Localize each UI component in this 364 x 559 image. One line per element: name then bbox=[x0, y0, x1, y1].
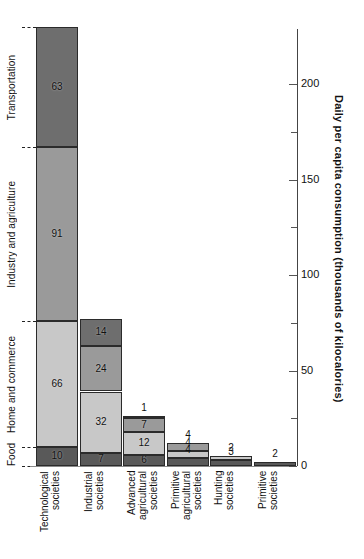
bar-5 bbox=[210, 0, 252, 466]
segment-value-label: 14 bbox=[95, 327, 106, 337]
segment-value-label: 12 bbox=[138, 438, 149, 448]
x-category-label-4: Primitive agricultural societies bbox=[170, 471, 206, 559]
bar-2: 7322414 bbox=[80, 0, 122, 466]
bar-4 bbox=[167, 0, 209, 466]
bar-segment-home-and-commerce: 32 bbox=[80, 392, 122, 453]
y-tick-label-100: 100 bbox=[301, 269, 319, 280]
y-tick-150 bbox=[289, 180, 297, 181]
y-tick-175 bbox=[291, 132, 297, 133]
segment-value-label: 91 bbox=[51, 229, 62, 239]
bar-segment-industry-and-agriculture: 91 bbox=[36, 147, 78, 321]
segment-value-label-outside: 2 bbox=[210, 443, 252, 453]
bar-segment-transportation bbox=[123, 416, 165, 418]
bar-segment-home-and-commerce: 12 bbox=[123, 432, 165, 455]
segment-value-label: 66 bbox=[51, 379, 62, 389]
bar-segment-food: 10 bbox=[36, 447, 78, 466]
y-tick-100 bbox=[289, 275, 297, 276]
segment-value-label: 24 bbox=[95, 364, 106, 374]
segment-value-label: 63 bbox=[51, 82, 62, 92]
bar-segment-home-and-commerce: 66 bbox=[36, 321, 78, 447]
y-tick-125 bbox=[291, 227, 297, 228]
bar-segment-food: 6 bbox=[123, 455, 165, 466]
y-tick-75 bbox=[291, 323, 297, 324]
bar-segment-food: 7 bbox=[80, 453, 122, 466]
bar-segment-transportation: 14 bbox=[80, 319, 122, 346]
y-axis-line bbox=[297, 29, 298, 466]
bar-segment-food bbox=[167, 458, 209, 466]
y-tick-label-50: 50 bbox=[301, 365, 313, 376]
segment-value-label: 32 bbox=[95, 417, 106, 427]
y-axis-title: Daily per capita consumption (thousands … bbox=[333, 95, 345, 403]
y-tick-label-150: 150 bbox=[301, 174, 319, 185]
segment-value-label-outside: 2 bbox=[254, 449, 296, 459]
x-category-label-5: Hunting societies bbox=[213, 471, 249, 559]
segment-value-label: 7 bbox=[98, 454, 104, 464]
bar-1: 10669163 bbox=[36, 0, 78, 466]
x-category-label-6: Primitive societies bbox=[257, 471, 293, 559]
bar-3: 6127 bbox=[123, 0, 165, 466]
y-tick-25 bbox=[291, 418, 297, 419]
bar-6 bbox=[254, 0, 296, 466]
bar-segment-transportation: 63 bbox=[36, 27, 78, 147]
segment-value-label-outside: 1 bbox=[123, 403, 165, 413]
x-category-label-2: Industrial societies bbox=[83, 471, 119, 559]
segment-value-label: 10 bbox=[51, 451, 62, 461]
y-tick-200 bbox=[289, 84, 297, 85]
y-tick-0 bbox=[289, 466, 297, 467]
y-tick-label-200: 200 bbox=[301, 78, 319, 89]
y-tick-label-0: 0 bbox=[301, 460, 307, 471]
bar-segment-industry-and-agriculture: 7 bbox=[123, 418, 165, 431]
bar-segment-industry-and-agriculture: 24 bbox=[80, 346, 122, 392]
segment-value-label: 6 bbox=[141, 455, 147, 465]
x-category-label-3: Advanced agricultural societies bbox=[126, 471, 162, 559]
y-tick-50 bbox=[289, 371, 297, 372]
segment-value-label-outside: 4 bbox=[167, 430, 209, 440]
x-category-label-1: Technological societies bbox=[39, 471, 75, 559]
stacked-bar-chart: FoodHome and commerceIndustry and agricu… bbox=[0, 0, 364, 559]
x-axis-baseline bbox=[30, 466, 297, 467]
segment-value-label: 7 bbox=[141, 420, 147, 430]
